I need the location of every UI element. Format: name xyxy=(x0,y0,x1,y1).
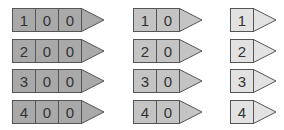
arrow-tip-icon xyxy=(81,69,105,93)
number-tag: 3 xyxy=(230,69,277,93)
number-tag: 300 xyxy=(12,69,105,93)
digit-cell: 0 xyxy=(156,8,180,32)
digit-cell: 0 xyxy=(156,100,180,124)
number-tag: 200 xyxy=(12,39,105,63)
digit-cell: 0 xyxy=(58,39,82,63)
digit-cell: 4 xyxy=(12,100,36,124)
digit-cell: 0 xyxy=(156,69,180,93)
number-tag: 10 xyxy=(133,8,203,32)
digit-cell: 0 xyxy=(35,69,59,93)
digit-cell: 0 xyxy=(35,39,59,63)
number-tag: 20 xyxy=(133,39,203,63)
arrow-tip-icon xyxy=(81,100,105,124)
number-tag: 2 xyxy=(230,39,277,63)
digit-cell: 0 xyxy=(58,8,82,32)
digit-cell: 3 xyxy=(12,69,36,93)
arrow-tip-icon xyxy=(179,69,203,93)
digit-cell: 0 xyxy=(156,39,180,63)
digit-cell: 4 xyxy=(133,100,157,124)
arrow-tip-icon xyxy=(253,39,277,63)
digit-cell: 3 xyxy=(133,69,157,93)
arrow-tip-icon xyxy=(81,8,105,32)
number-tag: 40 xyxy=(133,100,203,124)
digit-cell: 0 xyxy=(58,100,82,124)
digit-cell: 2 xyxy=(133,39,157,63)
digit-cell: 3 xyxy=(230,69,254,93)
digit-cell: 2 xyxy=(12,39,36,63)
arrow-tip-icon xyxy=(179,100,203,124)
number-tag: 100 xyxy=(12,8,105,32)
digit-cell: 0 xyxy=(58,69,82,93)
digit-cell: 1 xyxy=(230,8,254,32)
arrow-tip-icon xyxy=(81,39,105,63)
number-tag: 400 xyxy=(12,100,105,124)
number-tag: 30 xyxy=(133,69,203,93)
digit-cell: 2 xyxy=(230,39,254,63)
arrow-tip-icon xyxy=(253,8,277,32)
digit-cell: 4 xyxy=(230,100,254,124)
arrow-tip-icon xyxy=(253,100,277,124)
arrow-tip-icon xyxy=(179,39,203,63)
number-tag: 4 xyxy=(230,100,277,124)
arrow-tip-icon xyxy=(253,69,277,93)
number-tag: 1 xyxy=(230,8,277,32)
digit-cell: 1 xyxy=(133,8,157,32)
digit-cell: 0 xyxy=(35,8,59,32)
arrow-tip-icon xyxy=(179,8,203,32)
digit-cell: 1 xyxy=(12,8,36,32)
digit-cell: 0 xyxy=(35,100,59,124)
